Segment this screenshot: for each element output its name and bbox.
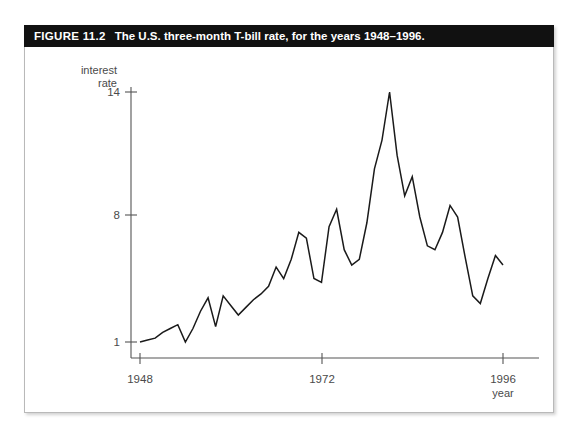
y-axis-title-line1: interest [81,64,117,76]
figure-page: FIGURE 11.2 The U.S. three-month T-bill … [0,0,578,436]
figure-caption: The U.S. three-month T-bill rate, for th… [115,30,425,42]
x-tick-label-1972: 1972 [309,373,335,385]
x-axis-title: year [492,387,514,399]
x-tick-label-1948: 1948 [127,373,153,385]
y-axis-title-line2: rate [98,77,117,89]
y-tick-label-1: 1 [114,336,120,348]
chart-plot-area: 14 8 1 interest rate 1948 1972 1996 year [24,47,554,413]
x-tick-label-1996: 1996 [490,373,516,385]
figure-title-bar: FIGURE 11.2 The U.S. three-month T-bill … [24,25,554,47]
line-chart-svg: 14 8 1 interest rate 1948 1972 1996 year [24,47,554,413]
figure-number: FIGURE 11.2 [34,30,106,42]
tbill-rate-line [140,92,503,342]
y-tick-label-8: 8 [114,209,120,221]
